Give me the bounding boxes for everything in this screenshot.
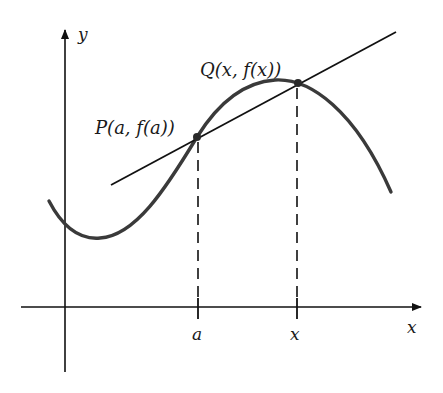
point-p-label: P(a, f(a)) — [94, 117, 175, 138]
tick-label-x: x — [290, 324, 300, 344]
point-p — [193, 133, 201, 141]
secant-line-diagram: y x a x P(a, f(a)) Q(x, f(x)) — [0, 0, 443, 393]
y-axis-label: y — [77, 24, 88, 44]
x-axis-label: x — [407, 317, 417, 337]
tick-label-a: a — [192, 324, 202, 344]
function-curve — [49, 80, 391, 238]
point-q — [294, 79, 302, 87]
point-q-label: Q(x, f(x)) — [200, 59, 281, 80]
secant-line — [111, 32, 396, 185]
